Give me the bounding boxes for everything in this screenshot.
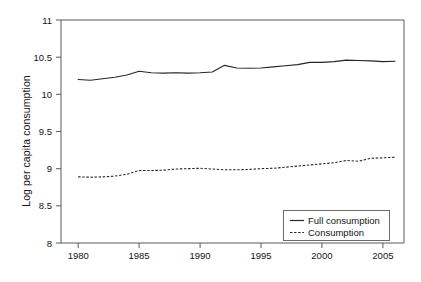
x-axis-tick-labels: 1980 1985 1990 1995 2000 2005	[68, 250, 394, 261]
chart-figure: Log per capita consumption 11 10.5 10 9.…	[0, 0, 421, 282]
y-tick-label-9_5: 9.5	[39, 126, 52, 137]
y-tick-label-10: 10	[41, 89, 52, 100]
series-line-full-consumption	[78, 60, 395, 80]
plot-frame	[61, 20, 404, 243]
x-axis-ticks	[78, 243, 383, 248]
x-tick-label-2000: 2000	[311, 250, 332, 261]
x-tick-label-1995: 1995	[250, 250, 271, 261]
legend: Full consumption Consumption	[284, 211, 390, 241]
y-axis-ticks	[56, 20, 61, 243]
x-tick-label-2005: 2005	[372, 250, 393, 261]
x-tick-label-1990: 1990	[190, 250, 211, 261]
y-tick-label-11: 11	[42, 15, 52, 26]
series-line-consumption	[78, 157, 395, 177]
y-tick-label-8_5: 8.5	[39, 200, 52, 211]
legend-label-consumption: Consumption	[308, 227, 364, 238]
y-tick-label-10_5: 10.5	[34, 52, 53, 63]
x-tick-label-1980: 1980	[68, 250, 89, 261]
line-chart-plot: 11 10.5 10 9.5 9 8.5 8 1980 1985 1990 19…	[0, 0, 421, 282]
y-tick-label-8: 8	[47, 238, 52, 249]
x-tick-label-1985: 1985	[129, 250, 150, 261]
series-lines	[78, 60, 395, 177]
y-tick-label-9: 9	[47, 163, 52, 174]
legend-label-full-consumption: Full consumption	[308, 215, 380, 226]
y-axis-tick-labels: 11 10.5 10 9.5 9 8.5 8	[34, 15, 53, 249]
